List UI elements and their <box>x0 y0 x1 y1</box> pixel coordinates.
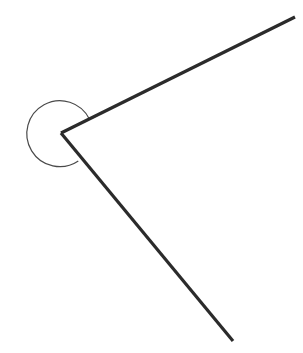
canvas-background <box>0 0 303 353</box>
angle-figure <box>0 0 303 353</box>
diagram-canvas <box>0 0 303 353</box>
